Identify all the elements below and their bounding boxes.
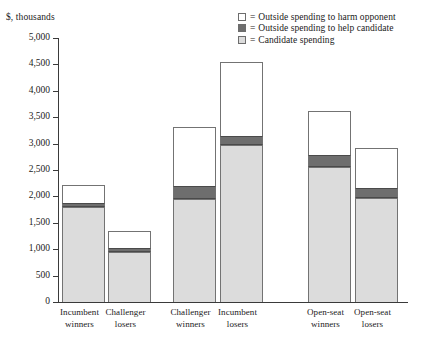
y-tick-label: 3,000 bbox=[29, 139, 50, 149]
legend-item-help: =Outside spending to help candidate bbox=[238, 23, 428, 35]
bar-segment-help bbox=[220, 136, 263, 145]
y-tick-label: 500 bbox=[36, 271, 50, 281]
bar-incumbent-losers bbox=[220, 62, 263, 302]
bar-segment-help bbox=[62, 203, 105, 207]
y-tick-mark bbox=[53, 38, 59, 39]
legend-label-harm: Outside spending to harm opponent bbox=[258, 12, 395, 22]
bar-segment-help bbox=[355, 188, 398, 198]
y-tick-mark bbox=[53, 117, 59, 118]
y-tick-mark bbox=[53, 144, 59, 145]
legend-label-help: Outside spending to help candidate bbox=[258, 23, 393, 33]
y-tick-label: 0 bbox=[45, 297, 50, 307]
y-tick-label: 1,500 bbox=[29, 218, 50, 228]
bar-segment-candidate bbox=[308, 167, 351, 302]
y-tick-mark bbox=[53, 249, 59, 250]
y-tick-label: 2,500 bbox=[29, 165, 50, 175]
bar-segment-harm bbox=[173, 127, 216, 186]
y-tick-mark bbox=[53, 196, 59, 197]
bar-segment-harm bbox=[62, 185, 105, 203]
bar-segment-candidate bbox=[62, 207, 105, 302]
legend-swatch-help-icon bbox=[238, 24, 246, 32]
legend-equals-sign: = bbox=[250, 12, 255, 22]
bar-segment-help bbox=[108, 248, 151, 252]
y-tick-mark bbox=[53, 91, 59, 92]
y-tick-label: 2,000 bbox=[29, 192, 50, 202]
y-tick-mark bbox=[53, 302, 59, 303]
category-label-line: losers bbox=[202, 319, 273, 331]
bar-segment-harm bbox=[108, 231, 151, 248]
bar-segment-harm bbox=[308, 111, 351, 155]
y-tick-label: 3,500 bbox=[29, 112, 50, 122]
category-label-line: Incumbent bbox=[202, 307, 273, 319]
bar-segment-candidate bbox=[108, 252, 151, 302]
bar-challenger-losers bbox=[108, 231, 151, 302]
legend-item-harm: =Outside spending to harm opponent bbox=[238, 11, 428, 23]
bar-segment-help bbox=[173, 186, 216, 199]
bar-segment-candidate bbox=[173, 199, 216, 302]
category-label-incumbent-losers: Incumbentlosers bbox=[202, 307, 273, 330]
bar-segment-harm bbox=[355, 148, 398, 188]
category-label-open-seat-losers: Open-seatlosers bbox=[337, 307, 408, 330]
bar-challenger-winners bbox=[173, 127, 216, 302]
y-tick-label: 1,000 bbox=[29, 244, 50, 254]
bar-open-seat-losers bbox=[355, 148, 398, 302]
y-tick-label: 4,500 bbox=[29, 60, 50, 70]
bar-open-seat-winners bbox=[308, 111, 351, 302]
legend-equals-sign: = bbox=[250, 23, 255, 33]
bar-segment-candidate bbox=[355, 198, 398, 302]
y-tick-mark bbox=[53, 223, 59, 224]
y-tick-label: 4,000 bbox=[29, 86, 50, 96]
legend-swatch-harm-icon bbox=[238, 13, 246, 21]
y-axis-unit-caption: $, thousands bbox=[6, 12, 55, 22]
x-axis-line bbox=[58, 302, 408, 303]
bar-incumbent-winners bbox=[62, 185, 105, 302]
plot-area: 5,0004,5004,0003,5003,0002,5002,0001,500… bbox=[58, 38, 408, 302]
category-label-line: Open-seat bbox=[337, 307, 408, 319]
y-tick-mark bbox=[53, 64, 59, 65]
y-tick-mark bbox=[53, 170, 59, 171]
category-label-line: losers bbox=[337, 319, 408, 331]
bar-segment-harm bbox=[220, 62, 263, 136]
y-tick-mark bbox=[53, 276, 59, 277]
stacked-bar-chart: $, thousands =Outside spending to harm o… bbox=[0, 0, 429, 343]
bar-segment-help bbox=[308, 155, 351, 167]
bar-segment-candidate bbox=[220, 145, 263, 302]
y-tick-label: 5,000 bbox=[29, 33, 50, 43]
category-label-line: losers bbox=[90, 319, 161, 331]
category-label-challenger-losers: Challengerlosers bbox=[90, 307, 161, 330]
category-label-line: Challenger bbox=[90, 307, 161, 319]
